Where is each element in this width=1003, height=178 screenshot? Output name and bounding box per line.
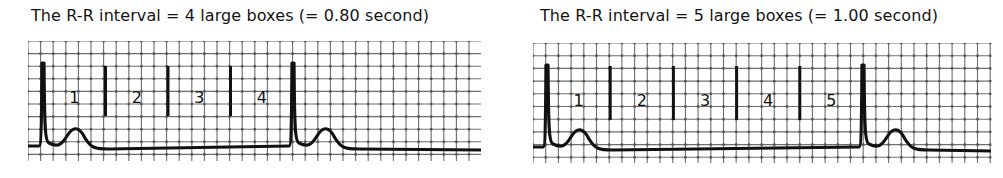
box-number: 2: [637, 91, 647, 110]
box-number: 1: [69, 88, 79, 107]
ecg-panel-right: The R-R interval = 5 large boxes (= 1.00…: [500, 0, 1003, 178]
panel-title: The R-R interval = 5 large boxes (= 1.00…: [540, 6, 938, 25]
ecg-grid-and-trace: 1234: [28, 41, 483, 163]
box-number: 4: [257, 88, 267, 107]
box-number: 3: [700, 91, 710, 110]
box-number: 3: [194, 88, 204, 107]
ecg-panel-left: The R-R interval = 4 large boxes (= 0.80…: [0, 0, 500, 178]
box-number: 2: [132, 88, 142, 107]
box-number: 1: [574, 91, 584, 110]
ecg-grid: [28, 41, 481, 161]
ecg-strip: 1234: [28, 41, 483, 163]
ecg-grid-and-trace: 12345: [533, 43, 993, 165]
box-number: 5: [826, 91, 836, 110]
box-number: 4: [763, 91, 773, 110]
ecg-strip: 12345: [533, 43, 993, 165]
panel-title: The R-R interval = 4 large boxes (= 0.80…: [31, 6, 429, 25]
